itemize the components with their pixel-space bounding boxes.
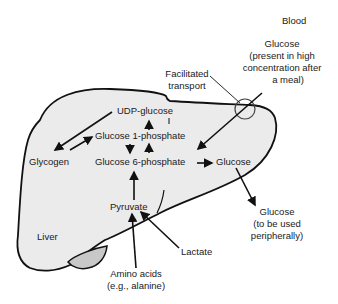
label-pyruvate: Pyruvate <box>110 201 148 213</box>
blood-glucose-line2: (present in high <box>240 50 324 62</box>
blood-glucose-line3: concentration after <box>240 62 324 74</box>
label-amino-acids: Amino acids (e.g., alanine) <box>100 268 172 292</box>
peripheral-glucose-line2: (to be used <box>244 218 310 230</box>
label-facilitated-transport: Facilitated transport <box>162 68 212 92</box>
amino-acids-line2: (e.g., alanine) <box>100 280 172 292</box>
amino-acids-line1: Amino acids <box>100 268 172 280</box>
label-liver: Liver <box>37 231 58 243</box>
label-udp-glucose: UDP-glucose <box>117 105 173 117</box>
facilitated-line2: transport <box>162 80 212 92</box>
peripheral-glucose-line3: peripherally) <box>244 230 310 242</box>
peripheral-glucose-line1: Glucose <box>244 206 310 218</box>
label-glucose-6-phosphate: Glucose 6-phosphate <box>95 156 185 168</box>
label-glucose-internal: Glucose <box>216 156 251 168</box>
label-glucose-1-phosphate: Glucose 1-phosphate <box>95 130 185 142</box>
label-peripheral-glucose: Glucose (to be used peripherally) <box>244 206 310 242</box>
arrow-lactate-to-pyruvate <box>141 212 179 248</box>
facilitated-line1: Facilitated <box>162 68 212 80</box>
label-blood-glucose: Glucose (present in high concentration a… <box>240 38 324 86</box>
label-glycogen: Glycogen <box>29 156 69 168</box>
transport-leader-line <box>210 76 240 103</box>
liver-glucose-diagram: Blood Glucose (present in high concentra… <box>0 0 338 304</box>
label-lactate: Lactate <box>181 246 212 258</box>
blood-glucose-line1: Glucose <box>240 38 324 50</box>
blood-glucose-line4: a meal) <box>240 74 324 86</box>
label-blood: Blood <box>282 15 306 27</box>
